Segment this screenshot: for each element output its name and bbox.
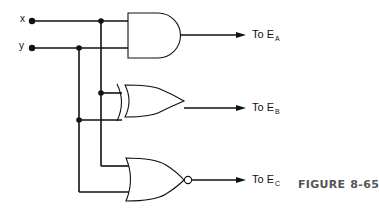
arrow-c-icon bbox=[236, 177, 246, 183]
figure-word: FIGURE bbox=[298, 178, 345, 191]
nor-gate-icon bbox=[126, 158, 184, 201]
output-subscript: C bbox=[275, 180, 280, 187]
input-x-label: x bbox=[20, 14, 25, 24]
input-y-terminal bbox=[29, 45, 35, 51]
output-subscript: B bbox=[275, 108, 280, 115]
arrow-b-icon bbox=[236, 105, 246, 111]
output-label-c: To EC bbox=[252, 174, 280, 185]
junction-dot bbox=[98, 90, 104, 96]
and-gate-icon bbox=[128, 13, 181, 58]
figure-number: 8-65 bbox=[350, 178, 379, 191]
output-prefix: To E bbox=[252, 173, 274, 185]
junction-dot bbox=[98, 18, 104, 24]
input-x-terminal bbox=[29, 18, 35, 24]
output-prefix: To E bbox=[252, 28, 274, 40]
junction-dot bbox=[76, 117, 82, 123]
input-y-label: y bbox=[19, 41, 24, 51]
xor-gate-extra-arc bbox=[117, 84, 122, 121]
arrow-a-icon bbox=[236, 32, 246, 38]
junction-dot bbox=[76, 45, 82, 51]
figure-caption: FIGURE8-65 bbox=[298, 178, 379, 191]
output-prefix: To E bbox=[252, 101, 274, 113]
xor-gate-icon bbox=[125, 85, 184, 117]
output-subscript: A bbox=[275, 35, 280, 42]
nor-bubble-icon bbox=[184, 176, 191, 183]
output-label-b: To EB bbox=[252, 102, 280, 113]
output-label-a: To EA bbox=[252, 29, 280, 40]
